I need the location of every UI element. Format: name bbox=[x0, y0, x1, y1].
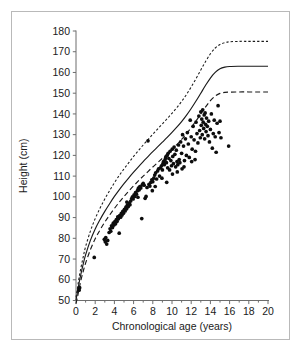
data-point bbox=[186, 142, 190, 146]
data-point bbox=[206, 134, 210, 138]
data-point bbox=[203, 111, 207, 115]
y-tick-label-130: 130 bbox=[52, 128, 70, 140]
y-axis-title: Height (cm) bbox=[17, 139, 29, 193]
y-tick-label-110: 110 bbox=[53, 170, 70, 182]
data-point bbox=[140, 217, 144, 221]
data-point bbox=[172, 145, 176, 149]
data-point bbox=[202, 127, 206, 131]
data-point bbox=[195, 132, 199, 136]
data-point bbox=[188, 118, 192, 122]
data-point bbox=[183, 159, 187, 163]
x-tick-label-8: 8 bbox=[150, 305, 156, 317]
data-point bbox=[214, 150, 218, 154]
x-axis-title: Chronological age (years) bbox=[112, 320, 232, 332]
lower-reference-curve bbox=[76, 92, 268, 304]
data-point bbox=[210, 146, 214, 150]
y-tick-label-140: 140 bbox=[52, 108, 70, 120]
data-point bbox=[177, 158, 181, 162]
data-point bbox=[153, 185, 157, 189]
data-point bbox=[174, 148, 178, 152]
data-point bbox=[213, 135, 217, 139]
x-tick-label-20: 20 bbox=[262, 305, 274, 317]
data-point bbox=[205, 116, 209, 120]
data-point bbox=[196, 141, 200, 145]
y-tick-label-180: 180 bbox=[52, 25, 70, 37]
data-point bbox=[186, 131, 190, 135]
data-point bbox=[165, 180, 169, 184]
data-point bbox=[217, 131, 221, 135]
y-tick-label-100: 100 bbox=[52, 190, 70, 202]
data-point bbox=[106, 239, 110, 243]
x-tick-label-10: 10 bbox=[166, 305, 178, 317]
x-tick-label-4: 4 bbox=[111, 305, 117, 317]
data-point bbox=[172, 162, 176, 166]
x-tick-label-14: 14 bbox=[205, 305, 217, 317]
data-point bbox=[187, 156, 191, 160]
y-tick-label-60: 60 bbox=[58, 273, 70, 285]
data-point bbox=[210, 112, 214, 116]
data-point bbox=[216, 104, 220, 108]
median-reference-curve bbox=[76, 66, 268, 300]
data-point bbox=[198, 129, 202, 133]
x-axis-tick-labels: 02468101214161820 bbox=[73, 305, 274, 317]
data-point bbox=[128, 203, 132, 207]
data-point bbox=[105, 242, 109, 246]
y-tick-label-170: 170 bbox=[52, 45, 70, 57]
data-point bbox=[197, 114, 201, 118]
data-point bbox=[194, 120, 198, 124]
y-tick-label-150: 150 bbox=[52, 87, 70, 99]
data-point bbox=[109, 229, 113, 233]
data-point bbox=[208, 140, 212, 144]
data-point bbox=[161, 168, 165, 172]
data-point bbox=[190, 160, 194, 164]
data-point bbox=[189, 135, 193, 139]
data-point bbox=[198, 136, 202, 140]
data-point bbox=[169, 159, 173, 163]
data-point bbox=[211, 132, 215, 136]
data-point bbox=[191, 125, 195, 129]
y-tick-label-90: 90 bbox=[58, 211, 70, 223]
data-point bbox=[168, 168, 172, 172]
data-point bbox=[144, 195, 148, 199]
data-point bbox=[199, 123, 203, 127]
data-point bbox=[150, 189, 154, 193]
data-point bbox=[171, 172, 175, 176]
chart-canvas: 5060708090100110120130140150160170180 02… bbox=[0, 0, 304, 356]
data-point bbox=[181, 133, 185, 137]
x-tick-label-6: 6 bbox=[131, 305, 137, 317]
y-tick-label-70: 70 bbox=[58, 253, 70, 265]
y-tick-label-120: 120 bbox=[52, 149, 70, 161]
data-point bbox=[92, 256, 96, 260]
data-point bbox=[218, 119, 222, 123]
data-point bbox=[184, 137, 188, 141]
data-point bbox=[148, 184, 152, 188]
data-point bbox=[200, 133, 204, 137]
data-point bbox=[160, 176, 164, 180]
x-tick-label-16: 16 bbox=[224, 305, 236, 317]
data-point bbox=[177, 143, 181, 147]
data-point bbox=[209, 128, 213, 132]
data-point bbox=[212, 118, 216, 122]
data-point bbox=[207, 119, 211, 123]
data-point bbox=[193, 158, 197, 162]
x-axis-ticks bbox=[76, 301, 268, 305]
data-point bbox=[182, 144, 186, 148]
data-point bbox=[117, 231, 121, 235]
data-point bbox=[146, 139, 150, 143]
data-point bbox=[151, 180, 155, 184]
data-point bbox=[165, 161, 169, 165]
data-point bbox=[142, 183, 146, 187]
upper-reference-curve bbox=[76, 41, 268, 297]
data-point bbox=[192, 138, 196, 142]
data-point bbox=[194, 149, 198, 153]
x-tick-label-18: 18 bbox=[243, 305, 255, 317]
y-tick-label-80: 80 bbox=[58, 232, 70, 244]
data-point bbox=[77, 288, 81, 292]
data-point bbox=[182, 165, 186, 169]
data-point bbox=[178, 161, 182, 165]
data-point bbox=[204, 130, 208, 134]
x-tick-label-12: 12 bbox=[185, 305, 197, 317]
data-point bbox=[179, 140, 183, 144]
data-point bbox=[219, 136, 223, 140]
data-point bbox=[205, 125, 209, 129]
